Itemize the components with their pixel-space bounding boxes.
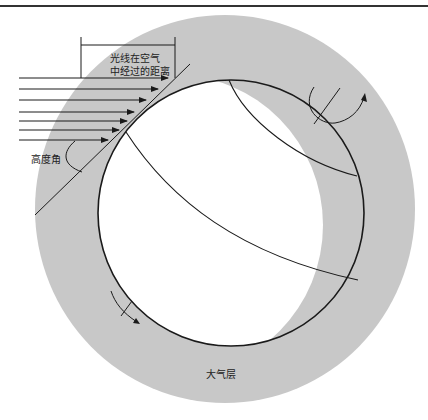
path-length-label: 光线在空气 中经过的距离 <box>110 52 170 78</box>
diagram-canvas <box>0 0 428 420</box>
sunlight-atmosphere-diagram: 光线在空气 中经过的距离 高度角 大气层 <box>0 0 428 420</box>
path-length-label-line1: 光线在空气 <box>110 52 170 65</box>
elevation-angle-label: 高度角 <box>31 153 61 166</box>
atmosphere-label: 大气层 <box>206 368 236 381</box>
path-length-label-line2: 中经过的距离 <box>110 65 170 78</box>
